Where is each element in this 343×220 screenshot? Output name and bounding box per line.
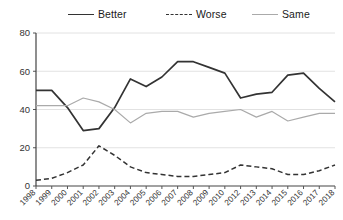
- x-tick-label: 2003: [97, 188, 117, 208]
- x-tick-label: 2013: [238, 188, 258, 208]
- plot-area: 020406080 199819992000200120022003200420…: [0, 0, 343, 220]
- y-tick-label: 60: [19, 66, 30, 77]
- x-tick-label: 2009: [191, 188, 211, 208]
- x-tick-label: 2001: [65, 188, 85, 208]
- y-tick-label: 20: [19, 142, 30, 153]
- series-line-worse: [36, 146, 335, 180]
- series-lines: [36, 62, 335, 181]
- x-tick-label: 2005: [128, 188, 148, 208]
- y-tick-label: 40: [19, 104, 30, 115]
- x-tick-label: 2018: [317, 188, 337, 208]
- x-tick-label: 2015: [270, 188, 290, 208]
- x-axis: [36, 186, 335, 189]
- x-tick-label: 2008: [176, 188, 196, 208]
- x-tick-label: 2016: [286, 188, 306, 208]
- y-axis: 020406080: [19, 27, 36, 191]
- x-tick-label: 2010: [207, 188, 227, 208]
- x-tick-label: 2002: [81, 188, 101, 208]
- x-tick-labels: 1998199920002001200220032004200520062007…: [18, 188, 337, 208]
- x-tick-label: 2006: [144, 188, 164, 208]
- x-tick-label: 2000: [50, 188, 70, 208]
- x-tick-label: 2004: [113, 188, 133, 208]
- y-tick-label: 80: [19, 27, 30, 38]
- x-tick-label: 1999: [34, 188, 54, 208]
- x-tick-label: 2012: [223, 188, 243, 208]
- x-tick-label: 2007: [160, 188, 180, 208]
- gridlines: [36, 33, 335, 148]
- series-line-same: [36, 98, 335, 123]
- line-chart: Better Worse Same 020406080 199819992000…: [0, 0, 343, 220]
- x-tick-label: 2017: [301, 188, 321, 208]
- x-tick-label: 1998: [18, 188, 38, 208]
- x-tick-label: 2014: [254, 188, 274, 208]
